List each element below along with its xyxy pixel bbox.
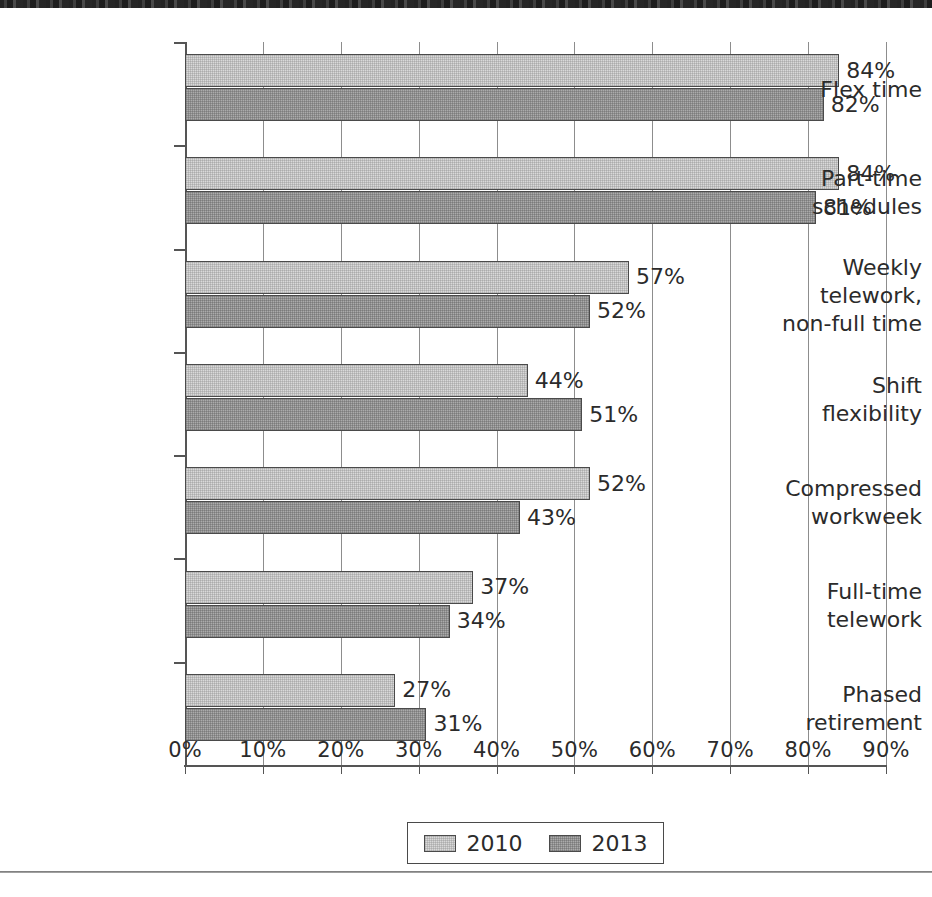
bar-2010-1 xyxy=(185,157,839,190)
x-axis-label-70%: 70% xyxy=(685,738,775,762)
category-label-line: Weekly xyxy=(757,254,922,282)
x-axis-line xyxy=(184,765,887,767)
category-label-1: Part-timeschedules xyxy=(757,165,932,221)
category-label-line: Flex time xyxy=(757,76,922,104)
category-label-line: non-full time xyxy=(757,310,922,338)
x-axis-label-80%: 80% xyxy=(763,738,853,762)
bar-value-2013-6: 31% xyxy=(433,713,482,735)
bar-2013-5 xyxy=(185,605,450,638)
y-tick-5 xyxy=(174,558,185,560)
legend-swatch-2010 xyxy=(424,835,456,852)
legend-swatch-2013 xyxy=(549,835,581,852)
chart-legend: 2010 2013 xyxy=(407,822,664,864)
category-label-line: workweek xyxy=(757,503,922,531)
category-label-line: telework, xyxy=(757,282,922,310)
x-axis-label-90%: 90% xyxy=(841,738,931,762)
bar-2013-2 xyxy=(185,295,590,328)
category-label-line: Part-time xyxy=(757,165,922,193)
legend-item-2010[interactable]: 2010 xyxy=(424,831,523,856)
category-label-3: Shiftflexibility xyxy=(757,372,932,428)
gridline-60% xyxy=(652,42,653,765)
bar-value-2013-4: 43% xyxy=(527,507,576,529)
y-tick-2 xyxy=(174,249,185,251)
bar-2010-4 xyxy=(185,467,590,500)
category-label-5: Full-timetelework xyxy=(757,578,932,634)
y-tick-3 xyxy=(174,352,185,354)
x-axis-label-0%: 0% xyxy=(140,738,230,762)
bar-value-2010-4: 52% xyxy=(597,473,646,495)
bar-2010-3 xyxy=(185,364,528,397)
category-label-line: Shift xyxy=(757,372,922,400)
legend-label-2010: 2010 xyxy=(467,831,523,856)
bar-2013-3 xyxy=(185,398,582,431)
bar-2010-6 xyxy=(185,674,395,707)
bar-value-2010-6: 27% xyxy=(402,679,451,701)
category-label-line: Full-time xyxy=(757,578,922,606)
x-axis-label-30%: 30% xyxy=(374,738,464,762)
bar-2013-4 xyxy=(185,501,520,534)
legend-item-2013[interactable]: 2013 xyxy=(549,831,648,856)
bar-2013-1 xyxy=(185,191,816,224)
category-label-line: flexibility xyxy=(757,400,922,428)
bar-value-2010-2: 57% xyxy=(636,266,685,288)
bar-value-2013-5: 34% xyxy=(457,610,506,632)
grouped-bar-chart: 84%82%84%81%57%52%44%51%52%43%37%34%27%3… xyxy=(0,0,932,897)
category-label-line: Phased xyxy=(757,681,922,709)
x-axis-label-40%: 40% xyxy=(452,738,542,762)
category-label-2: Weeklytelework,non-full time xyxy=(757,254,932,338)
category-label-6: Phasedretirement xyxy=(757,681,932,737)
bar-value-2010-3: 44% xyxy=(535,370,584,392)
gridline-70% xyxy=(730,42,731,765)
bar-2010-0 xyxy=(185,54,839,87)
x-axis-label-50%: 50% xyxy=(529,738,619,762)
bar-2013-0 xyxy=(185,88,824,121)
y-tick-1 xyxy=(174,145,185,147)
bar-value-2013-3: 51% xyxy=(589,404,638,426)
category-label-line: retirement xyxy=(757,709,922,737)
x-axis-label-10%: 10% xyxy=(218,738,308,762)
category-label-4: Compressedworkweek xyxy=(757,475,932,531)
bar-2010-2 xyxy=(185,261,629,294)
y-tick-0 xyxy=(174,42,185,44)
x-axis-label-60%: 60% xyxy=(607,738,697,762)
bar-value-2013-2: 52% xyxy=(597,300,646,322)
category-label-0: Flex time xyxy=(757,76,932,104)
legend-label-2013: 2013 xyxy=(592,831,648,856)
bar-2010-5 xyxy=(185,571,473,604)
bar-2013-6 xyxy=(185,708,426,741)
x-axis-label-20%: 20% xyxy=(296,738,386,762)
category-label-line: telework xyxy=(757,606,922,634)
y-tick-4 xyxy=(174,455,185,457)
category-label-line: schedules xyxy=(757,193,922,221)
bar-value-2010-5: 37% xyxy=(480,576,529,598)
category-label-line: Compressed xyxy=(757,475,922,503)
y-tick-6 xyxy=(174,662,185,664)
